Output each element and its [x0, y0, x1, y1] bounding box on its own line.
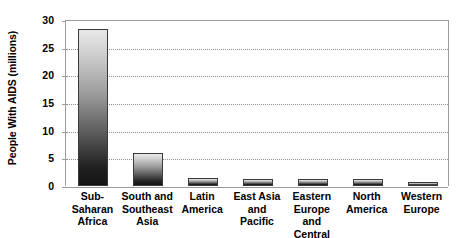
bar — [188, 178, 218, 186]
x-axis-category-label: South and Southeast Asia — [120, 190, 175, 228]
bar-slot — [121, 21, 176, 186]
y-axis-title-text: People With AIDS (millions) — [6, 31, 18, 166]
x-axis-category-labels: Sub-Saharan AfricaSouth and Southeast As… — [65, 190, 449, 238]
y-axis-tick-label: 0 — [48, 180, 54, 192]
y-axis-tick-mark — [62, 187, 66, 188]
x-axis-category-label: North America — [339, 190, 394, 215]
x-axis-category-label: Eastern Europe and Central Asia — [284, 190, 339, 238]
x-axis-category-label: Western Europe — [394, 190, 449, 215]
bar-slot — [231, 21, 286, 186]
y-axis-tick-label: 30 — [42, 14, 54, 26]
y-axis-tick-label: 20 — [42, 69, 54, 81]
bar — [78, 29, 108, 186]
bar — [298, 179, 328, 186]
bar — [353, 179, 383, 186]
bar — [133, 153, 163, 186]
y-axis-tick-label: 25 — [42, 42, 54, 54]
plot-area — [65, 20, 449, 186]
bar-slot — [176, 21, 231, 186]
bar-chart: People With AIDS (millions) 051015202530… — [0, 0, 464, 238]
bar-slot — [66, 21, 121, 186]
y-axis-title: People With AIDS (millions) — [0, 0, 24, 196]
x-axis-category-label: Sub-Saharan Africa — [65, 190, 120, 228]
gridline — [66, 187, 448, 188]
x-axis-category-label: Latin America — [175, 190, 230, 215]
y-axis-tick-label: 5 — [48, 152, 54, 164]
x-axis-category-label: East Asia and Pacific — [230, 190, 285, 228]
y-axis-tick-label: 15 — [42, 97, 54, 109]
y-axis-tick-label: 10 — [42, 125, 54, 137]
bar — [243, 179, 273, 186]
y-axis-tick-labels: 051015202530 — [24, 20, 60, 186]
bar-slot — [340, 21, 395, 186]
bar-slot — [395, 21, 450, 186]
bar — [408, 182, 438, 186]
bar-slot — [285, 21, 340, 186]
bars — [66, 21, 448, 186]
